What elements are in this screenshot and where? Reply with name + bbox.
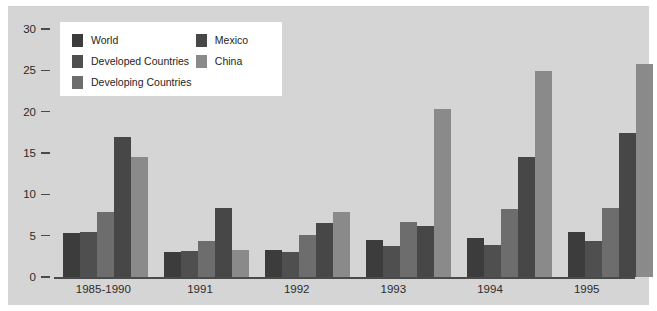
- legend-swatch-world: [72, 34, 83, 47]
- chart-legend: WorldDeveloped CountriesDeveloping Count…: [60, 22, 282, 96]
- bar-china: [232, 250, 249, 277]
- bar-developing-countries: [400, 222, 417, 277]
- legend-item-label: China: [215, 56, 242, 67]
- y-axis-tick: 15: [8, 147, 50, 159]
- y-axis-tick-mark: [41, 194, 50, 196]
- bar-mexico: [518, 157, 535, 277]
- y-axis-tick-mark: [41, 28, 50, 30]
- bar-group: [560, 29, 657, 277]
- x-axis-label: 1992: [248, 283, 345, 295]
- y-axis-tick-mark: [41, 111, 50, 113]
- x-axis-labels: 1985-199019911992199319941995: [55, 283, 635, 295]
- bar-china: [131, 157, 148, 277]
- y-axis-tick: 5: [8, 230, 50, 242]
- y-axis-tick-mark: [41, 152, 50, 154]
- bar-china: [434, 109, 451, 277]
- bar-world: [164, 252, 181, 277]
- legend-swatch-developed-countries: [72, 55, 83, 68]
- y-axis-tick-mark: [41, 235, 50, 237]
- bar-group: [459, 29, 560, 277]
- legend-column-left: WorldDeveloped CountriesDeveloping Count…: [72, 31, 196, 96]
- legend-item-label: World: [91, 35, 118, 46]
- y-axis-tick-mark: [41, 276, 50, 278]
- x-axis-label: 1994: [442, 283, 539, 295]
- chart-figure: 051015202530 1985-1990199119921993199419…: [8, 6, 649, 305]
- bar-world: [265, 250, 282, 277]
- legend-column-right: MexicoChina: [196, 31, 272, 96]
- y-axis-tick: 10: [8, 188, 50, 200]
- bar-china: [333, 212, 350, 277]
- bar-world: [63, 233, 80, 277]
- legend-swatch-developing-countries: [72, 76, 83, 89]
- bar-world: [568, 232, 585, 277]
- bar-china: [636, 64, 653, 277]
- y-axis-tick-label: 30: [23, 23, 36, 35]
- bar-developed-countries: [80, 232, 97, 277]
- x-axis-label: 1995: [538, 283, 635, 295]
- y-axis-tick-label: 20: [23, 106, 36, 118]
- y-axis-tick-mark: [41, 70, 50, 72]
- legend-item-label: Developed Countries: [91, 56, 189, 67]
- bar-mexico: [417, 226, 434, 277]
- bar-developed-countries: [585, 241, 602, 277]
- y-axis-tick: 20: [8, 106, 50, 118]
- bar-world: [366, 240, 383, 277]
- y-axis-tick-label: 25: [23, 64, 36, 76]
- y-axis-tick-label: 15: [23, 147, 36, 159]
- y-axis-tick-label: 0: [30, 271, 36, 283]
- bar-developed-countries: [383, 246, 400, 277]
- x-axis-line: [54, 277, 635, 279]
- legend-item: Developed Countries: [72, 52, 196, 71]
- bar-mexico: [316, 223, 333, 277]
- bar-world: [467, 238, 484, 277]
- y-axis-tick-label: 10: [23, 188, 36, 200]
- y-axis-tick: 30: [8, 23, 50, 35]
- bar-china: [535, 71, 552, 277]
- legend-item: Mexico: [196, 31, 272, 50]
- bar-developing-countries: [97, 212, 114, 277]
- bar-developed-countries: [282, 252, 299, 277]
- y-axis-tick-label: 5: [30, 230, 36, 242]
- legend-item-label: Mexico: [215, 35, 248, 46]
- bar-mexico: [114, 137, 131, 277]
- bar-group: [358, 29, 459, 277]
- y-axis-tick: 0: [8, 271, 50, 283]
- legend-item: Developing Countries: [72, 73, 196, 92]
- x-axis-label: 1991: [152, 283, 249, 295]
- bar-developed-countries: [484, 245, 501, 277]
- bar-developed-countries: [181, 251, 198, 277]
- bar-developing-countries: [501, 209, 518, 277]
- x-axis-label: 1993: [345, 283, 442, 295]
- bar-mexico: [215, 208, 232, 277]
- legend-swatch-mexico: [196, 34, 207, 47]
- y-axis-tick: 25: [8, 64, 50, 76]
- legend-item-label: Developing Countries: [91, 77, 191, 88]
- x-axis-label: 1985-1990: [55, 283, 152, 295]
- bar-developing-countries: [299, 235, 316, 277]
- legend-swatch-china: [196, 55, 207, 68]
- bar-developing-countries: [602, 208, 619, 277]
- bar-developing-countries: [198, 241, 215, 277]
- legend-item: China: [196, 52, 272, 71]
- legend-item: World: [72, 31, 196, 50]
- bar-mexico: [619, 133, 636, 277]
